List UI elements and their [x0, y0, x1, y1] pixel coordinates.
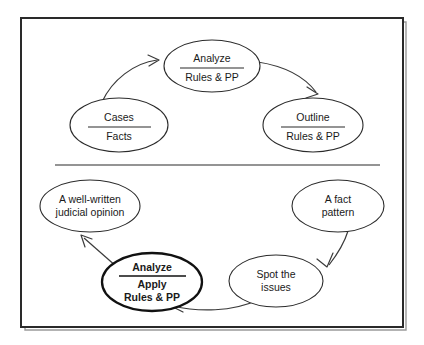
- node-outline-rules-pp-line-2: Rules & PP: [286, 130, 340, 142]
- node-outline-rules-pp-line-1: Outline: [296, 111, 329, 123]
- node-analyze-apply-rules-pp-line-1: Analyze: [132, 261, 172, 273]
- node-outline-rules-pp-shape: [263, 98, 363, 152]
- node-cases-facts[interactable]: Cases Facts: [70, 98, 168, 152]
- node-analyze-rules-pp-shape: [164, 40, 260, 92]
- node-cases-facts-shape: [70, 98, 168, 152]
- node-fact-pattern-line-1: A fact: [325, 193, 351, 205]
- node-analyze-rules-pp-line-2: Rules & PP: [185, 71, 239, 83]
- node-judicial-opinion[interactable]: A well-written judicial opinion: [40, 180, 140, 232]
- node-cases-facts-line-1: Cases: [104, 111, 134, 123]
- node-analyze-apply-rules-pp-line-3: Rules & PP: [124, 291, 180, 303]
- diagram-canvas: Analyze Rules & PP Cases Facts Outline R…: [0, 0, 424, 345]
- node-analyze-apply-rules-pp-line-2: Apply: [137, 278, 166, 290]
- diagram-root: Analyze Rules & PP Cases Facts Outline R…: [0, 0, 424, 345]
- node-spot-the-issues-line-2: issues: [261, 281, 291, 293]
- node-fact-pattern-line-2: pattern: [322, 206, 355, 218]
- node-judicial-opinion-line-1: A well-written: [59, 193, 121, 205]
- node-fact-pattern[interactable]: A fact pattern: [292, 180, 384, 232]
- node-analyze-apply-rules-pp[interactable]: Analyze Apply Rules & PP: [102, 253, 202, 311]
- node-outline-rules-pp[interactable]: Outline Rules & PP: [263, 98, 363, 152]
- node-analyze-rules-pp[interactable]: Analyze Rules & PP: [164, 40, 260, 92]
- node-cases-facts-line-2: Facts: [106, 130, 132, 142]
- node-judicial-opinion-line-2: judicial opinion: [55, 206, 125, 218]
- node-analyze-rules-pp-line-1: Analyze: [193, 52, 231, 64]
- node-spot-the-issues-line-1: Spot the: [256, 268, 295, 280]
- node-spot-the-issues[interactable]: Spot the issues: [229, 255, 323, 307]
